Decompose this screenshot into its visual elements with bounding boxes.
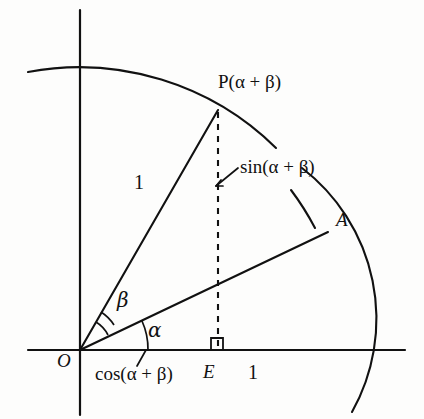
label-point-a: A <box>336 210 348 229</box>
label-angle-beta: β <box>117 290 129 310</box>
label-sin: sin(α + β) <box>240 157 315 176</box>
unit-circle-arc-lower <box>291 190 315 228</box>
angle-arc-beta-inner <box>96 322 108 335</box>
trigonometry-diagram: P(α + β) sin(α + β) A 1 β α O cos(α + β)… <box>0 0 424 419</box>
angle-arc-beta-outer <box>101 312 114 325</box>
label-point-p: P(α + β) <box>218 72 281 91</box>
label-origin: O <box>57 351 71 370</box>
label-foot-e: E <box>203 362 215 381</box>
label-radius-one-op: 1 <box>134 172 144 192</box>
label-radius-one-base: 1 <box>248 362 258 382</box>
label-angle-alpha: α <box>148 320 162 340</box>
label-cos: cos(α + β) <box>95 364 173 383</box>
outer-arc <box>302 168 376 412</box>
segment-op <box>80 110 218 350</box>
